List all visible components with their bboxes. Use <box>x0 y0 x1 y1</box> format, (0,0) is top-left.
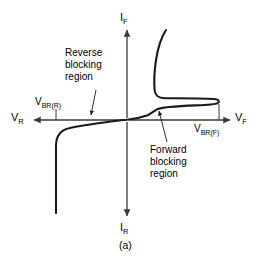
forward-region-leader-line <box>159 111 167 142</box>
axis-label-forward-current: IF <box>120 11 128 24</box>
reverse-region-leader-line <box>91 90 96 115</box>
forward-breakover-voltage-text: V <box>194 123 201 134</box>
characteristic-curve-plot <box>0 0 259 261</box>
axis-label-forward-voltage: VF <box>235 111 247 124</box>
forward-breakover-voltage-label: VBR(F) <box>194 123 219 135</box>
axis-label-reverse-current-sub: R <box>123 227 128 236</box>
reverse-blocking-region-line-1: Reverse <box>65 47 102 59</box>
forward-blocking-region-line-2: blocking <box>150 156 187 168</box>
axis-label-reverse-voltage-sub: R <box>18 117 23 126</box>
axis-label-reverse-current: IR <box>120 221 128 234</box>
forward-blocking-region-line-3: region <box>150 168 187 180</box>
axis-label-reverse-voltage: VR <box>11 111 24 124</box>
four-layer-diode-characteristic-figure: IF IR VR VF VBR(R) VBR(F) Reverse blocki… <box>0 0 259 261</box>
forward-breakover-voltage-sub: BR(F) <box>201 129 220 136</box>
forward-blocking-region-line-1: Forward <box>150 144 187 156</box>
reverse-blocking-region-label: Reverse blocking region <box>65 47 102 82</box>
reverse-breakdown-voltage-label: VBR(R) <box>35 96 61 108</box>
reverse-blocking-region-line-2: blocking <box>65 59 102 71</box>
figure-caption: (a) <box>119 239 132 251</box>
reverse-breakdown-voltage-sub: BR(R) <box>42 102 61 109</box>
axis-label-forward-current-sub: F <box>123 17 128 26</box>
forward-blocking-region-label: Forward blocking region <box>150 144 187 179</box>
reverse-blocking-region-line-3: region <box>65 71 102 83</box>
reverse-breakdown-voltage-text: V <box>35 96 42 107</box>
axis-label-forward-voltage-sub: F <box>242 117 247 126</box>
